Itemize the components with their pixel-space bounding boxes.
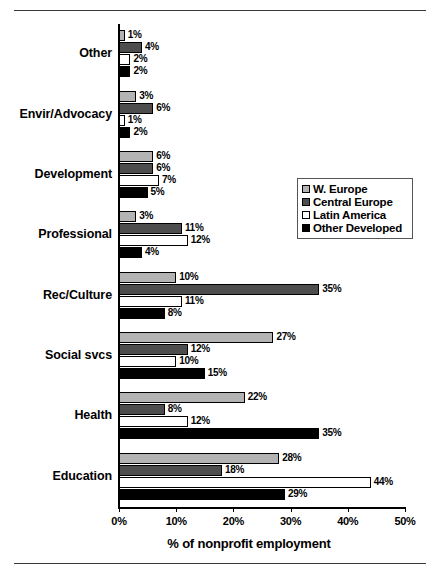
bar[interactable]	[119, 127, 130, 138]
bar-row: 44%	[119, 477, 405, 488]
x-axis-tick	[176, 507, 177, 512]
bar-value-label: 18%	[225, 464, 244, 476]
bar-value-label: 3%	[139, 90, 153, 102]
bar[interactable]	[119, 30, 125, 41]
bar[interactable]	[119, 235, 188, 246]
bar-value-label: 15%	[208, 367, 227, 379]
bar-row: 8%	[119, 404, 405, 415]
bar-row: 1%	[119, 115, 405, 126]
bar[interactable]	[119, 247, 142, 258]
bar-value-label: 35%	[322, 283, 341, 295]
plot-area: 0%10%20%30%40%50% 1%4%2%2%3%6%1%2%6%6%7%…	[119, 24, 405, 507]
bar[interactable]	[119, 489, 285, 500]
bar[interactable]	[119, 163, 153, 174]
bar-value-label: 35%	[322, 427, 341, 439]
bar[interactable]	[119, 187, 148, 198]
bar-value-label: 4%	[145, 41, 159, 53]
bar[interactable]	[119, 223, 182, 234]
y-axis-category-labels: OtherEnvir/AdvocacyDevelopmentProfession…	[0, 24, 112, 507]
bar-group: 22%8%12%35%	[119, 392, 405, 440]
bar-group: 3%6%1%2%	[119, 91, 405, 139]
x-axis-line	[118, 507, 406, 509]
bar-row: 35%	[119, 428, 405, 439]
bar-value-label: 11%	[185, 295, 204, 307]
chart-legend[interactable]: W. EuropeCentral EuropeLatin AmericaOthe…	[297, 178, 413, 239]
bar-value-label: 11%	[185, 222, 204, 234]
bar[interactable]	[119, 54, 130, 65]
legend-swatch-icon	[302, 211, 310, 219]
x-axis-tick	[119, 507, 120, 512]
bar[interactable]	[119, 103, 153, 114]
bar-row: 2%	[119, 54, 405, 65]
bar[interactable]	[119, 308, 165, 319]
bar-group: 10%35%11%8%	[119, 272, 405, 320]
x-axis-tick-label: 50%	[394, 515, 415, 527]
bar[interactable]	[119, 66, 130, 77]
bar[interactable]	[119, 175, 159, 186]
legend-item[interactable]: Central Europe	[302, 195, 408, 208]
bar-value-label: 6%	[156, 162, 170, 174]
footer-divider-rule	[14, 563, 426, 564]
y-axis-category-label: Envir/Advocacy	[20, 107, 112, 121]
bar-group: 27%12%10%15%	[119, 332, 405, 380]
bar-value-label: 3%	[139, 210, 153, 222]
bar-value-label: 28%	[282, 452, 301, 464]
legend-label: W. Europe	[313, 183, 367, 195]
bar[interactable]	[119, 284, 319, 295]
legend-item[interactable]: Other Developed	[302, 221, 408, 234]
bar[interactable]	[119, 392, 245, 403]
bar[interactable]	[119, 465, 222, 476]
bar-value-label: 2%	[133, 126, 147, 138]
bar-value-label: 5%	[151, 186, 165, 198]
x-axis-title: % of nonprofit employment	[0, 536, 438, 551]
bar[interactable]	[119, 42, 142, 53]
y-axis-category-label: Professional	[38, 227, 112, 241]
bar-row: 4%	[119, 42, 405, 53]
y-axis-category-label: Education	[52, 469, 112, 483]
bar-row: 6%	[119, 103, 405, 114]
bar[interactable]	[119, 416, 188, 427]
bar[interactable]	[119, 428, 319, 439]
bar[interactable]	[119, 344, 188, 355]
bar-row: 4%	[119, 247, 405, 258]
bar-value-label: 6%	[156, 150, 170, 162]
bar-row: 1%	[119, 30, 405, 41]
y-axis-category-label: Health	[74, 408, 112, 422]
x-axis-tick	[348, 507, 349, 512]
legend-item[interactable]: W. Europe	[302, 182, 408, 195]
bar[interactable]	[119, 272, 176, 283]
bar[interactable]	[119, 453, 279, 464]
bar-row: 8%	[119, 308, 405, 319]
bar[interactable]	[119, 477, 371, 488]
bar-row: 2%	[119, 127, 405, 138]
x-axis-tick-label: 10%	[166, 515, 187, 527]
legend-label: Other Developed	[313, 222, 402, 234]
bar-value-label: 4%	[145, 246, 159, 258]
bar[interactable]	[119, 296, 182, 307]
bar-row: 27%	[119, 332, 405, 343]
legend-item[interactable]: Latin America	[302, 208, 408, 221]
bar[interactable]	[119, 211, 136, 222]
legend-label: Latin America	[313, 209, 386, 221]
bar-row: 18%	[119, 465, 405, 476]
x-axis-tick	[291, 507, 292, 512]
bar-value-label: 2%	[133, 65, 147, 77]
legend-label: Central Europe	[313, 196, 393, 208]
bar-value-label: 1%	[128, 29, 142, 41]
bar-row: 15%	[119, 368, 405, 379]
bar-value-label: 7%	[162, 174, 176, 186]
bar[interactable]	[119, 356, 176, 367]
bar-value-label: 2%	[133, 53, 147, 65]
bar[interactable]	[119, 151, 153, 162]
bar[interactable]	[119, 91, 136, 102]
bar-value-label: 22%	[248, 391, 267, 403]
bar[interactable]	[119, 404, 165, 415]
bar-row: 10%	[119, 272, 405, 283]
bar[interactable]	[119, 332, 273, 343]
bar[interactable]	[119, 115, 125, 126]
bar-row: 3%	[119, 91, 405, 102]
bar-value-label: 10%	[179, 271, 198, 283]
bar-row: 12%	[119, 416, 405, 427]
bar-value-label: 12%	[191, 234, 210, 246]
bar[interactable]	[119, 368, 205, 379]
